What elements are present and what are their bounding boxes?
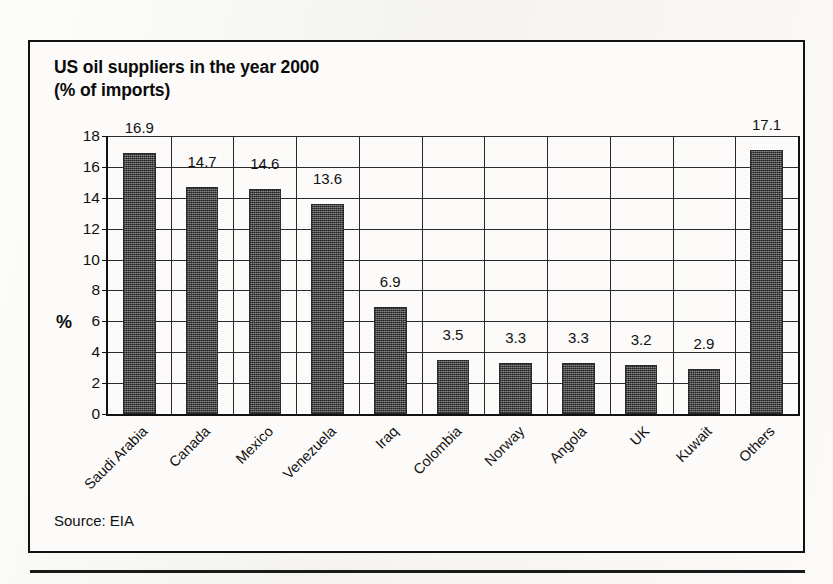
y-axis-tick-label: 0 xyxy=(91,405,100,423)
x-axis-category-label-text: Venezuela xyxy=(280,423,339,482)
bar-group: 17.1Others xyxy=(750,136,783,414)
gridline-vertical xyxy=(610,136,611,414)
gridline-vertical xyxy=(422,136,423,414)
bar-value-label: 16.9 xyxy=(125,119,154,136)
y-axis-tick-mark xyxy=(102,198,108,199)
gridline-vertical xyxy=(673,136,674,414)
x-axis-category-label-text: Mexico xyxy=(232,423,276,467)
x-axis-category-label: Venezuela xyxy=(280,423,339,482)
gridline-vertical xyxy=(359,136,360,414)
bar-value-label: 6.9 xyxy=(380,273,401,290)
y-axis-tick-label: 2 xyxy=(91,374,100,392)
bar[interactable] xyxy=(123,153,156,414)
plot-area: 02468101214161816.9Saudi Arabia14.7Canad… xyxy=(106,136,800,416)
gridline-vertical xyxy=(484,136,485,414)
y-axis-tick-mark xyxy=(102,167,108,168)
bar-value-label: 3.3 xyxy=(505,329,526,346)
gridline-vertical xyxy=(547,136,548,414)
bar-value-label: 14.6 xyxy=(250,155,279,172)
x-axis-category-label: Iraq xyxy=(373,423,402,452)
bar-group: 14.6Mexico xyxy=(249,136,282,414)
x-axis-category-label-text: UK xyxy=(627,423,653,449)
bar[interactable] xyxy=(186,187,219,414)
x-axis-category-label: Colombia xyxy=(410,423,465,478)
bar-value-label: 17.1 xyxy=(752,116,781,133)
x-axis-category-label: UK xyxy=(627,423,653,449)
bar[interactable] xyxy=(374,307,407,414)
bar[interactable] xyxy=(437,360,470,414)
x-axis-category-label: Mexico xyxy=(232,423,276,467)
bar[interactable] xyxy=(311,204,344,414)
gridline-vertical xyxy=(233,136,234,414)
x-axis-category-label-text: Kuwait xyxy=(673,423,715,465)
bar-group: 3.5Colombia xyxy=(437,136,470,414)
y-axis-tick-mark xyxy=(102,321,108,322)
bar-group: 14.7Canada xyxy=(186,136,219,414)
bar-group: 6.9Iraq xyxy=(374,136,407,414)
x-axis-category-label-text: Norway xyxy=(481,423,527,469)
gridline-vertical xyxy=(296,136,297,414)
y-axis-tick-mark xyxy=(102,136,108,137)
bar-group: 3.3Angola xyxy=(562,136,595,414)
bar-group: 3.3Norway xyxy=(499,136,532,414)
bar-value-label: 2.9 xyxy=(693,335,714,352)
gridline-vertical xyxy=(735,136,736,414)
bar[interactable] xyxy=(688,369,721,414)
y-axis-tick-label: 18 xyxy=(83,127,100,145)
x-axis-category-label: Angola xyxy=(547,423,590,466)
y-axis-tick-mark xyxy=(102,352,108,353)
bar-group: 16.9Saudi Arabia xyxy=(123,136,156,414)
y-axis-tick-label: 4 xyxy=(91,343,100,361)
bar-group: 3.2UK xyxy=(625,136,658,414)
y-axis-tick-label: 14 xyxy=(83,189,100,207)
bar[interactable] xyxy=(750,150,783,414)
plot-wrapper: 02468101214161816.9Saudi Arabia14.7Canad… xyxy=(30,42,803,551)
bar-value-label: 13.6 xyxy=(313,170,342,187)
x-axis-category-label-text: Canada xyxy=(166,423,213,470)
x-axis-category-label: Canada xyxy=(166,423,213,470)
bar-value-label: 14.7 xyxy=(187,153,216,170)
bar-value-label: 3.3 xyxy=(568,329,589,346)
bar-group: 13.6Venezuela xyxy=(311,136,344,414)
x-axis-category-label-text: Others xyxy=(736,423,778,465)
bar-group: 2.9Kuwait xyxy=(688,136,721,414)
bar-value-label: 3.5 xyxy=(443,326,464,343)
x-axis-category-label-text: Iraq xyxy=(373,423,402,452)
x-axis-category-label: Norway xyxy=(481,423,527,469)
bar[interactable] xyxy=(249,189,282,414)
y-axis-tick-label: 12 xyxy=(83,220,100,238)
chart-figure-frame: US oil suppliers in the year 2000 (% of … xyxy=(28,40,805,553)
y-axis-tick-mark xyxy=(102,260,108,261)
y-axis-tick-mark xyxy=(102,229,108,230)
y-axis-tick-mark xyxy=(102,414,108,415)
bar[interactable] xyxy=(562,363,595,414)
source-note: Source: EIA xyxy=(54,512,134,529)
x-axis-category-label: Others xyxy=(736,423,778,465)
x-axis-category-label: Kuwait xyxy=(673,423,715,465)
y-axis-tick-label: 10 xyxy=(83,251,100,269)
bar[interactable] xyxy=(499,363,532,414)
y-axis-tick-label: 6 xyxy=(91,312,100,330)
bar[interactable] xyxy=(625,365,658,414)
bar-value-label: 3.2 xyxy=(631,331,652,348)
x-axis-category-label-text: Angola xyxy=(547,423,590,466)
x-axis-category-label-text: Colombia xyxy=(410,423,465,478)
y-axis-tick-mark xyxy=(102,383,108,384)
x-axis-category-label: Saudi Arabia xyxy=(81,423,150,492)
y-axis-tick-mark xyxy=(102,290,108,291)
gridline-vertical xyxy=(171,136,172,414)
x-axis-category-label-text: Saudi Arabia xyxy=(81,423,150,492)
y-axis-tick-label: 16 xyxy=(83,158,100,176)
y-axis-tick-label: 8 xyxy=(91,281,100,299)
bottom-divider-rule xyxy=(30,570,805,573)
